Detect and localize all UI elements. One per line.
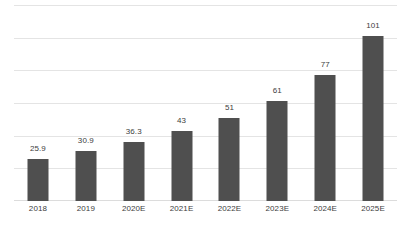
bar-rect[interactable] xyxy=(219,118,240,201)
bar-slot: 61 xyxy=(253,5,301,201)
bar-rect[interactable] xyxy=(171,131,192,201)
bar-slot: 101 xyxy=(349,5,397,201)
bar-slot: 51 xyxy=(206,5,254,201)
x-axis: 2018 2019 2020E 2021E 2022E 2023E 2024E … xyxy=(14,203,397,219)
x-tick-label: 2021E xyxy=(158,203,206,215)
bar-slot: 36.3 xyxy=(110,5,158,201)
bar-value-label: 77 xyxy=(321,60,330,69)
bar-value-label: 36.3 xyxy=(126,127,142,136)
bar-value-label: 61 xyxy=(273,86,282,95)
bar-chart: 25.9 30.9 36.3 43 51 61 77 101 xyxy=(0,0,409,230)
x-tick-label: 2019 xyxy=(62,203,110,215)
x-tick-label: 2022E xyxy=(206,203,254,215)
x-tick-label: 2025E xyxy=(349,203,397,215)
x-tick-label: 2024E xyxy=(301,203,349,215)
bar-rect[interactable] xyxy=(75,151,96,202)
bar-slot: 43 xyxy=(158,5,206,201)
bar-rect[interactable] xyxy=(363,36,384,201)
bar-value-label: 101 xyxy=(366,21,380,30)
bar-slot: 30.9 xyxy=(62,5,110,201)
bar-slot: 25.9 xyxy=(14,5,62,201)
bar-value-label: 25.9 xyxy=(30,144,46,153)
bar-value-label: 30.9 xyxy=(78,136,94,145)
x-tick-label: 2023E xyxy=(253,203,301,215)
bar-value-label: 51 xyxy=(225,103,234,112)
x-tick-label: 2020E xyxy=(110,203,158,215)
bar-rect[interactable] xyxy=(315,75,336,201)
bar-slot: 77 xyxy=(301,5,349,201)
bar-rect[interactable] xyxy=(123,142,144,201)
bar-rect[interactable] xyxy=(27,159,48,201)
bars-layer: 25.9 30.9 36.3 43 51 61 77 101 xyxy=(14,5,397,201)
bar-rect[interactable] xyxy=(267,101,288,201)
bar-value-label: 43 xyxy=(177,116,186,125)
x-tick-label: 2018 xyxy=(14,203,62,215)
